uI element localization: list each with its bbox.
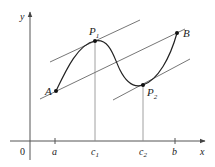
- tick-label-c1: c1: [91, 146, 99, 159]
- y-axis-label: y: [19, 11, 25, 22]
- label-p1: P1: [88, 25, 99, 40]
- secant-line-ab: [40, 29, 185, 99]
- tick-label-c2: c2: [139, 146, 147, 159]
- label-p2: P2: [146, 86, 158, 101]
- point-a: [54, 89, 58, 93]
- point-b: [175, 31, 179, 35]
- mean-value-theorem-diagram: A P1 P2 B y x 0 a c1 c2 b: [0, 0, 215, 167]
- label-a: A: [44, 85, 52, 97]
- tick-label-a: a: [52, 146, 57, 157]
- point-p2: [141, 83, 145, 87]
- x-axis-label: x: [199, 146, 205, 157]
- origin-label: 0: [20, 146, 25, 157]
- tick-label-b: b: [172, 146, 177, 157]
- label-b: B: [183, 27, 190, 39]
